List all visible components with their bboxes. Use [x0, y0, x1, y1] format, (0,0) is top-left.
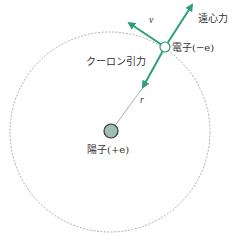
- velocity-label: v: [149, 15, 153, 25]
- radius-line: [111, 86, 144, 131]
- electron-dot: [160, 42, 170, 52]
- centrifugal-label: 遠心力: [198, 14, 228, 24]
- proton-label: 陽子(+e): [87, 145, 129, 155]
- electron-label: 電子(−e): [172, 43, 214, 53]
- atom-diagram: [0, 0, 237, 240]
- radius-label: r: [140, 95, 144, 105]
- coulomb-force-arrow: [143, 47, 165, 87]
- coulomb-label: クーロン引力: [86, 57, 146, 67]
- centrifugal-force-arrow: [165, 5, 192, 47]
- proton-dot: [104, 124, 118, 138]
